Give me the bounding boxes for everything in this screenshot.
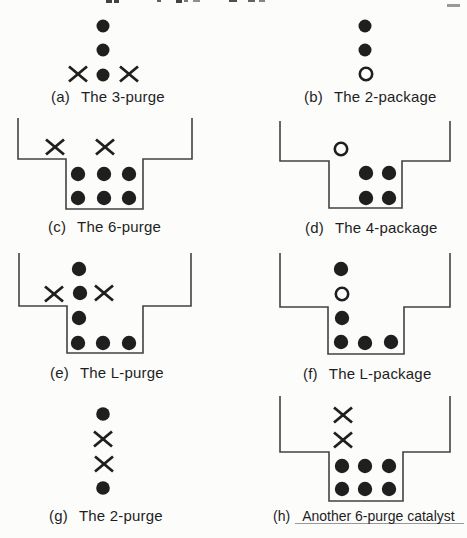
filled-circle-token <box>359 166 373 180</box>
filled-circle-token <box>334 335 348 349</box>
figure-c-caption: (c)The 6-purge <box>48 218 161 236</box>
figure-f-caption-title: The L-package <box>329 365 432 382</box>
filled-circle-token <box>359 20 372 33</box>
diagram-shape-layer <box>0 0 467 538</box>
x-mark-token <box>69 67 87 82</box>
filled-circle-token <box>359 44 372 57</box>
filled-circle-token <box>97 20 110 33</box>
figure-g-caption: (g)The 2-purge <box>49 507 163 525</box>
x-mark-token <box>95 457 113 472</box>
figure-f-caption: (f)The L-package <box>303 365 431 383</box>
figure-e-caption: (e)The L-purge <box>50 364 164 382</box>
filled-circle-token <box>72 311 86 325</box>
figure-c-caption-index: (c) <box>48 218 66 235</box>
cropped-text-fragment <box>184 0 188 2</box>
cropped-text-fragment <box>248 0 255 2</box>
filled-circle-token <box>122 167 136 181</box>
filled-circle-token <box>335 311 349 325</box>
filled-circle-token <box>97 191 111 205</box>
filled-circle-token <box>71 167 85 181</box>
cropped-text-fragment <box>157 0 161 2</box>
filled-circle-token <box>96 336 110 350</box>
figure-d-caption-index: (d) <box>305 219 324 236</box>
figure-f-caption-index: (f) <box>303 365 318 382</box>
figure-e-caption-index: (e) <box>50 364 69 381</box>
filled-circle-token <box>335 482 349 496</box>
cropped-text-fragment <box>259 0 265 2</box>
figure-g-caption-title: The 2-purge <box>79 507 163 524</box>
figure-b-caption-index: (b) <box>304 88 323 105</box>
figure-b-caption: (b)The 2-package <box>304 88 437 106</box>
filled-circle-token <box>382 166 396 180</box>
cropped-text-fragment <box>114 0 119 3</box>
filled-circle-token <box>358 482 372 496</box>
filled-circle-token <box>122 336 136 350</box>
x-mark-token <box>334 408 352 423</box>
filled-circle-token <box>97 44 110 57</box>
figure-h-caption: (h)Another 6-purge catalyst <box>273 508 455 525</box>
x-mark-token <box>45 287 63 302</box>
filled-circle-token <box>97 167 111 181</box>
filled-circle-token <box>71 191 85 205</box>
x-mark-token <box>334 433 352 448</box>
cropped-text-fragment <box>193 0 200 2</box>
figure-g-caption-index: (g) <box>49 507 68 524</box>
filled-circle-token <box>382 191 396 205</box>
figure-page: (a)The 3-purge (b)The 2-package (c)The 6… <box>0 0 467 538</box>
filled-circle-token <box>72 262 86 276</box>
figure-b-caption-title: The 2-package <box>334 88 437 105</box>
filled-circle-token <box>73 286 87 300</box>
filled-circle-token <box>122 191 136 205</box>
cropped-text-fragment <box>176 0 182 3</box>
open-circle-token <box>360 68 372 80</box>
x-mark-token <box>96 140 114 155</box>
filled-circle-token <box>359 191 373 205</box>
filled-circle-token <box>382 482 396 496</box>
figure-a-caption: (a)The 3-purge <box>51 88 165 106</box>
filled-circle-token <box>97 69 110 82</box>
figure-h-caption-title: Another 6-purge catalyst <box>302 508 455 524</box>
open-circle-token <box>335 143 347 155</box>
x-mark-token <box>94 432 112 447</box>
filled-circle-token <box>358 459 372 473</box>
figure-h-caption-index: (h) <box>273 508 290 524</box>
figure-a-caption-title: The 3-purge <box>81 88 165 105</box>
figure-a-caption-index: (a) <box>51 88 70 105</box>
filled-circle-token <box>96 407 110 421</box>
figure-e-caption-title: The L-purge <box>80 364 164 381</box>
figure-d-caption-title: The 4-package <box>335 219 438 236</box>
figure-c-caption-title: The 6-purge <box>77 218 161 235</box>
open-circle-token <box>336 288 348 300</box>
filled-circle-token <box>382 459 396 473</box>
cropped-text-fragment <box>106 0 112 3</box>
filled-circle-token <box>96 481 110 495</box>
x-mark-token <box>95 286 113 301</box>
filled-circle-token <box>384 335 398 349</box>
figure-d-caption: (d)The 4-package <box>305 219 438 237</box>
x-mark-token <box>46 140 64 155</box>
cropped-text-fragment <box>229 0 237 2</box>
filled-circle-token <box>358 336 372 350</box>
filled-circle-token <box>334 262 348 276</box>
cropped-text-fragment <box>447 4 460 7</box>
filled-circle-token <box>335 459 349 473</box>
filled-circle-token <box>71 336 85 350</box>
x-mark-token <box>120 67 138 82</box>
